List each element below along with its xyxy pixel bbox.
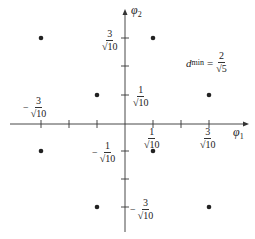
numerator: 3 [35,96,42,108]
y-tick-label-pos1: 1 √10 [131,85,149,108]
fraction: 1 √10 [133,85,149,108]
denominator: √10 [138,210,154,221]
numerator: 1 [148,127,155,139]
denominator: √10 [200,139,216,150]
denominator: √10 [144,139,160,150]
x-tick-label-pos3: 3 √10 [198,127,216,150]
numerator: 3 [142,198,149,210]
denominator: √5 [216,63,227,74]
signal-point [207,205,212,210]
minus-sign: − [92,148,98,158]
signal-point [39,149,44,154]
dmin-annotation: dmin = 2 √5 [186,51,227,74]
x-axis-label: φ1 [233,125,244,141]
fraction: 3 √10 [138,198,154,221]
constellation-plot [0,0,255,239]
denominator: √10 [102,41,118,52]
x-tick-label-pos1: 1 √10 [142,127,160,150]
denominator: √10 [100,153,116,164]
x-tick-label-neg3: − 3 √10 [23,96,46,119]
fraction: 3 √10 [102,29,118,52]
numerator: 3 [106,29,113,41]
y-tick-label-pos3: 3 √10 [100,29,118,52]
minus-sign: − [23,103,29,113]
fraction: 2 √5 [216,51,227,74]
x-axis-symbol: φ [233,125,240,139]
fraction: 1 √10 [144,127,160,150]
x-axis-arrow-icon [243,122,249,127]
fraction: 1 √10 [100,141,116,164]
minus-sign: − [130,205,136,215]
y-axis-symbol: φ [131,3,138,17]
fraction: 3 √10 [31,96,47,119]
numerator: 1 [137,85,144,97]
y-tick-label-neg3: − 3 √10 [130,198,153,221]
dmin-fraction: 2 √5 [216,51,227,74]
y-axis-arrow-icon [123,9,128,15]
y-axis-subscript: 2 [138,10,142,19]
signal-point [95,93,100,98]
fraction: 3 √10 [200,127,216,150]
signal-point [95,205,100,210]
y-tick-label-neg1: − 1 √10 [92,141,115,164]
denominator: √10 [133,97,149,108]
numerator: 3 [204,127,211,139]
signal-point [39,36,44,41]
y-axis-label: φ2 [131,3,142,19]
x-axis-subscript: 1 [240,132,244,141]
signal-point [207,93,212,98]
signal-point [151,36,156,41]
numerator: 1 [104,141,111,153]
equals-sign: = [207,57,213,69]
denominator: √10 [31,108,47,119]
numerator: 2 [218,51,225,63]
dmin-subscript: min [192,58,204,67]
